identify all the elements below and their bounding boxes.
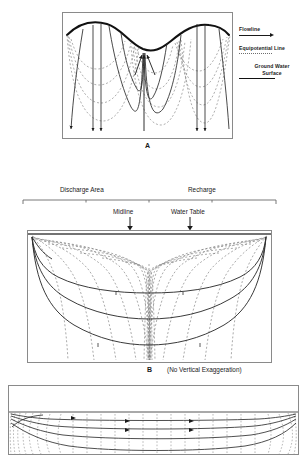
flow-direction-arrows-c xyxy=(71,416,194,432)
flowlines-c xyxy=(11,414,296,451)
panel-b-note: (No Vertical Exaggeration) xyxy=(167,366,242,374)
legend-swatch-ground-water-surface xyxy=(239,77,279,81)
equipotential-sample-line xyxy=(239,53,272,54)
panel-b-plot-box xyxy=(27,230,272,363)
legend-swatch-flowline xyxy=(239,33,279,37)
legend-item-flowline: Flowline xyxy=(239,26,305,37)
legend-label-equipotential: Equipotential Line xyxy=(239,45,305,51)
equipotential-lines-a xyxy=(67,35,230,125)
panel-a-legend: Flowline Equipotential Line Ground Water… xyxy=(239,26,305,88)
panel-a-plot-box xyxy=(62,12,233,139)
flowline-sample-line xyxy=(239,35,272,36)
legend-label-flowline: Flowline xyxy=(239,26,305,32)
legend-item-ground-water-surface: Ground Water Surface xyxy=(239,63,305,80)
ground-water-surface-sample-line xyxy=(239,78,275,80)
label-discharge-area: Discharge Area xyxy=(60,186,104,194)
label-water-table: Water Table xyxy=(171,208,205,216)
panel-b-extent-bracket xyxy=(22,196,277,204)
label-midline: Midline xyxy=(113,208,133,216)
legend-label-ground-water-surface-line2: Surface xyxy=(239,70,305,76)
label-recharge: Recharge xyxy=(188,186,216,194)
flowlines-a xyxy=(71,24,229,131)
discharge-arrows-a xyxy=(135,55,155,131)
flowline-arrow-icon xyxy=(270,33,274,37)
legend-swatch-equipotential xyxy=(239,52,279,56)
panel-c-plot-box xyxy=(8,385,299,455)
panel-c-flownet xyxy=(9,386,298,454)
panel-a-flownet xyxy=(63,13,232,138)
panel-a-label: A xyxy=(62,142,233,151)
legend-item-equipotential: Equipotential Line xyxy=(239,45,305,56)
water-table-pointer-arrow-icon xyxy=(186,217,194,231)
panel-b-flownet xyxy=(28,231,271,362)
midline-pointer-arrow-icon xyxy=(126,217,134,231)
